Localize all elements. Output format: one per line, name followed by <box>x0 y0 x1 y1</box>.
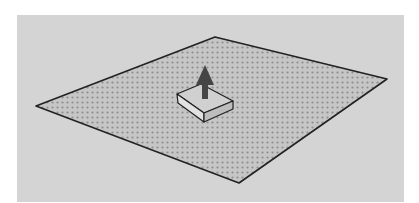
push-pull-illustration <box>0 0 419 203</box>
diagram-stage <box>0 0 419 203</box>
